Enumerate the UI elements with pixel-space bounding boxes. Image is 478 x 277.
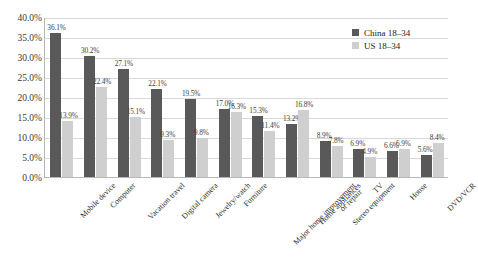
bar-value-label: 22.4% [93,78,111,86]
bar-us [365,157,376,177]
bar-group: 30.2%22.4% [79,18,113,177]
y-axis-tick-label: 40.0% [0,13,42,23]
bar-us [163,140,174,177]
bar-china [421,155,432,177]
legend-item-label: China 18–34 [364,28,410,38]
y-axis-tick-label: 35.0% [0,33,42,43]
bar-value-label: 27.1% [115,60,133,68]
x-axis-tick-label: House [407,181,428,202]
legend-item[interactable]: China 18–34 [352,26,448,39]
bar-value-label: 7.8% [329,137,344,145]
bar-value-label: 36.1% [47,24,65,32]
bar-value-label: 15.3% [249,107,267,115]
bar-value-label: 11.4% [261,122,279,130]
bar-value-label: 15.1% [127,108,145,116]
y-axis-tick-label: 0.0% [0,173,42,183]
bar-value-label: 9.3% [160,131,175,139]
legend-swatch-icon [352,42,359,49]
bar-value-label: 4.9% [362,148,377,156]
bar-china [50,33,61,177]
chart-legend: China 18–34US 18–34 [352,26,448,52]
bar-value-label: 13.9% [59,112,77,120]
y-axis: 0.0%5.0%10.0%15.0%20.0%25.0%30.0%35.0%40… [0,18,42,178]
bar-group: 15.3%11.4% [247,18,281,177]
y-axis-tick-label: 30.0% [0,53,42,63]
bar-value-label: 22.1% [148,80,166,88]
bar-us [433,143,444,177]
bar-us [231,112,242,177]
bar-china [185,99,196,177]
bar-value-label: 8.4% [430,134,445,142]
x-axis-tick-label: DVD/VCR [446,181,478,213]
bar-china [84,56,95,177]
bar-group: 13.2%16.8% [281,18,315,177]
bar-value-label: 16.3% [228,103,246,111]
bar-us [197,138,208,177]
bar-group: 36.1%13.9% [45,18,79,177]
legend-item[interactable]: US 18–34 [352,39,448,52]
bar-us [96,87,107,177]
y-axis-tick-label: 5.0% [0,153,42,163]
legend-swatch-icon [352,29,359,36]
bar-china [387,151,398,177]
bar-group: 19.5%9.8% [180,18,214,177]
bar-us [399,149,410,177]
bar-us [62,121,73,177]
bar-value-label: 19.5% [182,90,200,98]
bar-group: 17.0%16.3% [213,18,247,177]
bar-value-label: 5.6% [418,146,433,154]
bar-value-label: 30.2% [81,47,99,55]
bar-value-label: 6.9% [396,140,411,148]
bar-us [264,131,275,177]
legend-item-label: US 18–34 [364,41,400,51]
bar-group: 27.1%15.1% [112,18,146,177]
bar-china [118,69,129,177]
bar-us [130,117,141,177]
bar-value-label: 16.8% [295,101,313,109]
bar-group: 22.1%9.3% [146,18,180,177]
y-axis-tick-label: 25.0% [0,73,42,83]
bar-china [286,124,297,177]
bar-china [219,109,230,177]
bar-us [298,110,309,177]
y-axis-tick-label: 20.0% [0,93,42,103]
y-axis-tick-label: 10.0% [0,133,42,143]
bar-us [332,146,343,177]
bar-value-label: 9.8% [194,129,209,137]
y-axis-tick-label: 15.0% [0,113,42,123]
bar-group: 8.9%7.8% [314,18,348,177]
bar-china [320,141,331,177]
x-axis: Mobile deviceComputerVacation travelDigi… [44,179,448,277]
